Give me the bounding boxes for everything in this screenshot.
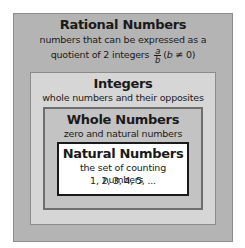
whole-numbers-desc: zero and natural numbers — [45, 128, 201, 140]
natural-numbers-box: Natural Numbers the set of counting numb… — [57, 142, 189, 196]
condition-rest: ≠ 0) — [173, 49, 196, 60]
integers-title: Integers — [31, 76, 215, 91]
rational-numbers-desc-line1: numbers that can be expressed as a — [14, 34, 232, 46]
natural-numbers-title: Natural Numbers — [59, 146, 187, 161]
rational-desc-prefix: quotient of 2 integers — [51, 49, 150, 60]
integers-desc: whole numbers and their opposites — [31, 92, 215, 104]
whole-numbers-title: Whole Numbers — [45, 112, 201, 127]
rational-numbers-desc-line2: quotient of 2 integers a b (b ≠ 0) — [14, 47, 232, 64]
rational-numbers-title: Rational Numbers — [14, 17, 232, 32]
fraction-a-over-b: a b — [154, 47, 161, 64]
natural-numbers-desc-line2: 1, 2, 3, 4, 5, ... — [59, 175, 187, 187]
fraction-denominator: b — [154, 56, 161, 64]
